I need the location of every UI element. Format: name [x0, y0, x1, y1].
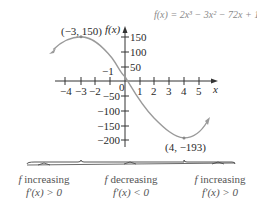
curve-arrow-left-icon — [49, 48, 56, 54]
y-axis-label: f(x) — [105, 23, 121, 36]
x-tick-label: −2 — [89, 85, 101, 97]
y-axis-arrow-icon — [123, 26, 128, 33]
local-min-label: (4, −193) — [165, 141, 206, 154]
y-tick-label: −100 — [97, 105, 120, 117]
y-tick-label: −50 — [103, 90, 121, 102]
x-tick-label: 4 — [181, 85, 187, 97]
x-tick-label: 5 — [196, 85, 202, 97]
x-tick-label: 1 — [137, 85, 143, 97]
x-tick-label: −4 — [60, 85, 72, 97]
x-axis-label: x — [212, 83, 218, 95]
interval-label-left: f increasing f′(x) > 0 — [14, 173, 74, 199]
local-min-marker — [183, 136, 186, 139]
interval-label-middle: f decreasing f′(x) < 0 — [100, 173, 162, 199]
y-tick-label: 150 — [130, 31, 147, 43]
interval-label-right: f increasing f′(x) > 0 — [189, 173, 251, 199]
x-tick-label: −1 — [102, 65, 114, 77]
x-tick-label: 3 — [166, 85, 172, 97]
brace-baseline — [27, 163, 235, 165]
y-tick-label: 50 — [130, 61, 142, 73]
local-max-label: (−3, 150) — [61, 25, 102, 38]
x-tick-label: 2 — [151, 85, 157, 97]
function-title: f(x) = 2x³ − 3x² − 72x + 15 — [154, 9, 257, 21]
x-tick-label: −3 — [75, 85, 87, 97]
y-tick-label: −150 — [97, 120, 120, 132]
y-tick-label: −200 — [97, 134, 120, 146]
y-tick-label: 100 — [130, 46, 147, 58]
